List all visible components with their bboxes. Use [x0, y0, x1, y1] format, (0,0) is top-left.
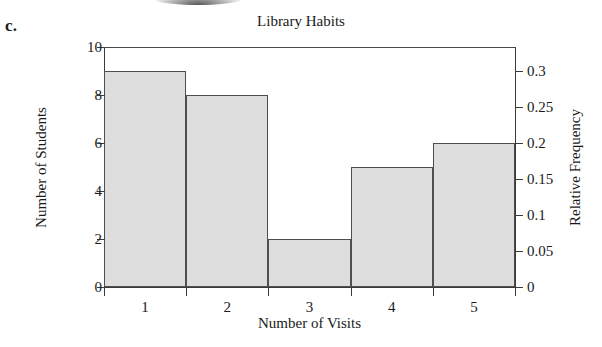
y-tick-label-primary: 4 — [95, 183, 103, 200]
plot-area: 0246810 00.050.10.150.20.250.3 12345 — [104, 47, 515, 287]
y-tick-label-secondary: 0 — [527, 279, 535, 296]
y-tick-secondary — [515, 107, 523, 108]
y-tick-secondary — [515, 71, 523, 72]
x-tick — [515, 287, 516, 296]
y-tick-secondary — [515, 287, 523, 288]
y-tick-secondary — [515, 215, 523, 216]
y-tick-label-secondary: 0.05 — [527, 242, 553, 259]
y-tick-secondary — [515, 251, 523, 252]
y-tick-label-primary: 10 — [87, 39, 102, 56]
x-tick-label: 5 — [470, 299, 478, 316]
y-tick-label-secondary: 0.25 — [527, 98, 553, 115]
bar — [351, 167, 433, 287]
y-tick-label-secondary: 0.2 — [527, 134, 546, 151]
axis-bottom — [100, 287, 523, 288]
y-tick-label-primary: 2 — [95, 231, 103, 248]
y-axis-label-secondary-text: Relative Frequency — [568, 108, 585, 225]
y-tick-label-secondary: 0.3 — [527, 62, 546, 79]
scan-artifact-arc — [152, 0, 244, 5]
bar — [268, 239, 350, 287]
x-tick-label: 2 — [224, 299, 232, 316]
x-tick — [351, 287, 352, 296]
axis-top — [104, 47, 515, 48]
y-tick-label-secondary: 0.15 — [527, 170, 553, 187]
y-tick-label-primary: 6 — [95, 135, 103, 152]
x-tick-label: 3 — [306, 299, 314, 316]
x-tick — [433, 287, 434, 296]
y-axis-label-primary-text: Number of Students — [33, 107, 50, 228]
x-tick — [268, 287, 269, 296]
bar — [186, 95, 268, 287]
y-tick-secondary — [515, 143, 523, 144]
x-tick — [104, 287, 105, 296]
y-axis-label-primary: Number of Students — [31, 47, 51, 287]
y-tick-label-secondary: 0.1 — [527, 206, 546, 223]
y-tick-secondary — [515, 179, 523, 180]
x-tick-label: 4 — [388, 299, 396, 316]
bar — [104, 71, 186, 287]
bar — [433, 143, 515, 287]
y-tick-label-primary: 0 — [95, 279, 103, 296]
x-tick-label: 1 — [141, 299, 149, 316]
y-tick-label-primary: 8 — [95, 87, 103, 104]
chart-title: Library Habits — [0, 13, 602, 30]
x-axis-label: Number of Visits — [104, 315, 515, 332]
y-axis-label-secondary: Relative Frequency — [566, 47, 586, 287]
x-tick — [186, 287, 187, 296]
